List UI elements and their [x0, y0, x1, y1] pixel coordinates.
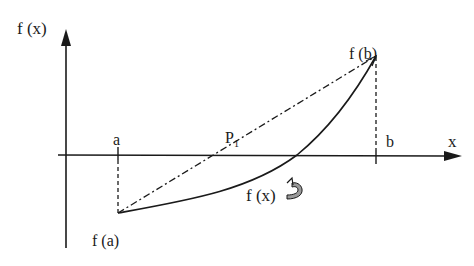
x-axis-label: x — [448, 133, 457, 150]
fb-label: f (b) — [349, 46, 377, 62]
curve-label: f (x) — [246, 187, 276, 204]
p1-label-main: P — [225, 129, 234, 146]
x-axis-arrow-icon — [444, 151, 462, 161]
b-label: b — [386, 134, 394, 150]
diagram-canvas: f (x) f (b) a P1 b x f (a) f (x) — [0, 0, 474, 266]
p1-label-sub: 1 — [234, 138, 239, 149]
y-axis — [61, 29, 71, 248]
a-label: a — [113, 132, 120, 148]
p1-label: P1 — [225, 130, 239, 149]
y-axis-arrow-icon — [61, 29, 71, 46]
y-axis-label: f (x) — [17, 20, 47, 37]
fa-label: f (a) — [92, 233, 119, 249]
curved-pointer-arrow-icon — [287, 178, 302, 199]
